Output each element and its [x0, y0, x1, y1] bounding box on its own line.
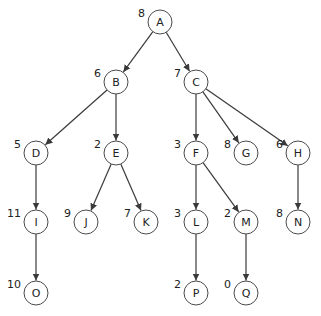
- node-label: J: [83, 216, 87, 229]
- node-a: A8: [138, 7, 172, 34]
- node-p: P2: [174, 278, 208, 305]
- node-value: 6: [94, 67, 101, 80]
- node-value: 3: [174, 138, 181, 151]
- node-g: G8: [224, 138, 258, 165]
- node-o: O10: [7, 278, 48, 305]
- node-label: F: [193, 147, 199, 160]
- node-l: L3: [174, 207, 208, 234]
- node-f: F3: [174, 138, 208, 165]
- node-value: 2: [224, 207, 231, 220]
- node-label: A: [156, 16, 164, 29]
- node-m: M2: [224, 207, 258, 234]
- node-value: 6: [276, 138, 283, 151]
- node-value: 9: [64, 207, 71, 220]
- node-label: O: [32, 287, 41, 300]
- node-value: 0: [224, 278, 231, 291]
- node-value: 11: [7, 207, 21, 220]
- node-value: 2: [174, 278, 181, 291]
- node-label: I: [34, 216, 37, 229]
- edge-a-c: [166, 32, 189, 71]
- node-label: C: [192, 76, 200, 89]
- node-label: M: [241, 216, 251, 229]
- node-label: G: [242, 147, 251, 160]
- node-value: 3: [174, 207, 181, 220]
- node-j: J9: [64, 207, 98, 234]
- node-h: H6: [276, 138, 310, 165]
- node-c: C7: [174, 67, 208, 94]
- edge-b-d: [45, 90, 107, 145]
- edges-layer: [36, 32, 298, 281]
- node-value: 8: [276, 207, 283, 220]
- node-value: 8: [138, 7, 145, 20]
- node-i: I11: [7, 207, 48, 234]
- node-e: E2: [94, 138, 128, 165]
- edge-e-k: [121, 164, 141, 211]
- node-label: L: [193, 216, 200, 229]
- node-q: Q0: [224, 278, 258, 305]
- node-value: 5: [14, 138, 21, 151]
- node-n: N8: [276, 207, 310, 234]
- node-value: 7: [174, 67, 181, 80]
- node-label: K: [142, 216, 150, 229]
- node-value: 7: [124, 207, 131, 220]
- node-d: D5: [14, 138, 48, 165]
- node-label: N: [294, 216, 302, 229]
- tree-diagram: A8B6C7D5E2F3G8H6I11J9K7L3M2N8O10P2Q0: [0, 0, 321, 316]
- node-value: 2: [94, 138, 101, 151]
- node-value: 10: [7, 278, 21, 291]
- node-b: B6: [94, 67, 128, 94]
- edge-a-b: [123, 32, 153, 72]
- node-label: P: [193, 287, 200, 300]
- node-label: B: [112, 76, 120, 89]
- node-value: 8: [224, 138, 231, 151]
- edge-f-m: [203, 163, 239, 212]
- node-label: D: [32, 147, 40, 160]
- node-label: Q: [242, 287, 251, 300]
- node-label: H: [294, 147, 302, 160]
- nodes-layer: A8B6C7D5E2F3G8H6I11J9K7L3M2N8O10P2Q0: [7, 7, 310, 305]
- node-label: E: [113, 147, 120, 160]
- node-k: K7: [124, 207, 158, 234]
- edge-e-j: [91, 164, 111, 211]
